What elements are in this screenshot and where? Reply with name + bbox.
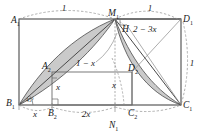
arc-right [181,22,188,105]
arc-top-left [19,11,115,20]
label-N1: N1 [108,120,118,132]
dim-right-one: 1 [190,58,195,68]
label-C1: C1 [183,100,192,112]
label-A2: A2 [41,61,51,73]
dim-h-d1: 2 − 3x [133,24,157,34]
arc-bottom-right [115,105,181,112]
dim-one-minus-x: 1 − x [76,58,95,68]
label-H: H [121,24,130,34]
label-D1: D1 [182,14,193,26]
label-B1: B1 [6,98,15,110]
geometry-figure: A1 M1 D1 B1 C1 A2 D2 B2 C2 N1 H 1 1 1 x … [0,0,206,134]
dim-b2-n1-2x: 2x [82,109,91,119]
dim-top-right-one: 1 [148,3,153,13]
label-A1: A1 [10,15,20,27]
label-B2: B2 [48,108,57,120]
label-M1: M1 [107,8,119,20]
segment-b1-m1 [19,19,115,105]
right-angle-b2 [52,99,58,105]
dim-c2-vertical-x: x [111,80,116,90]
label-angle-45: 45° [26,97,34,103]
label-C2: C2 [128,108,137,120]
dim-top-left-one: 1 [62,3,67,13]
dim-b1-b2-x: x [32,109,37,119]
dim-inner-vertical-x: x [55,82,60,92]
inner-rectangle [52,72,132,105]
